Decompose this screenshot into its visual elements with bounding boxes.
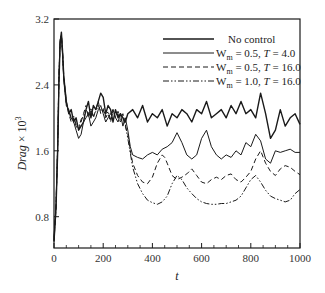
x-tick-label: 200 (95, 252, 112, 264)
x-tick-label: 1000 (289, 252, 312, 264)
x-axis-label: t (175, 269, 179, 283)
y-tick-label: 2.4 (35, 79, 49, 91)
x-tick-label: 400 (144, 252, 161, 264)
x-tick-label: 800 (243, 252, 260, 264)
y-tick-label: 0.8 (35, 211, 49, 223)
drag-time-chart: 020040060080010000.81.62.43.2 No control… (0, 0, 325, 293)
x-tick-label: 600 (193, 252, 210, 264)
y-tick-label: 3.2 (35, 13, 49, 25)
x-tick-label: 0 (51, 252, 57, 264)
legend-label-0: No control (228, 33, 275, 45)
y-axis-label: Drag × 103 (14, 116, 29, 171)
legend-label-1: Wm = 0.5, T = 4.0 (216, 47, 296, 62)
legend-label-3: Wm = 1.0, T = 16.0 (216, 75, 301, 90)
y-tick-label: 1.6 (35, 145, 49, 157)
legend: No controlWm = 0.5, T = 4.0Wm = 0.5, T =… (163, 33, 301, 90)
legend-label-2: Wm = 0.5, T = 16.0 (216, 61, 301, 76)
